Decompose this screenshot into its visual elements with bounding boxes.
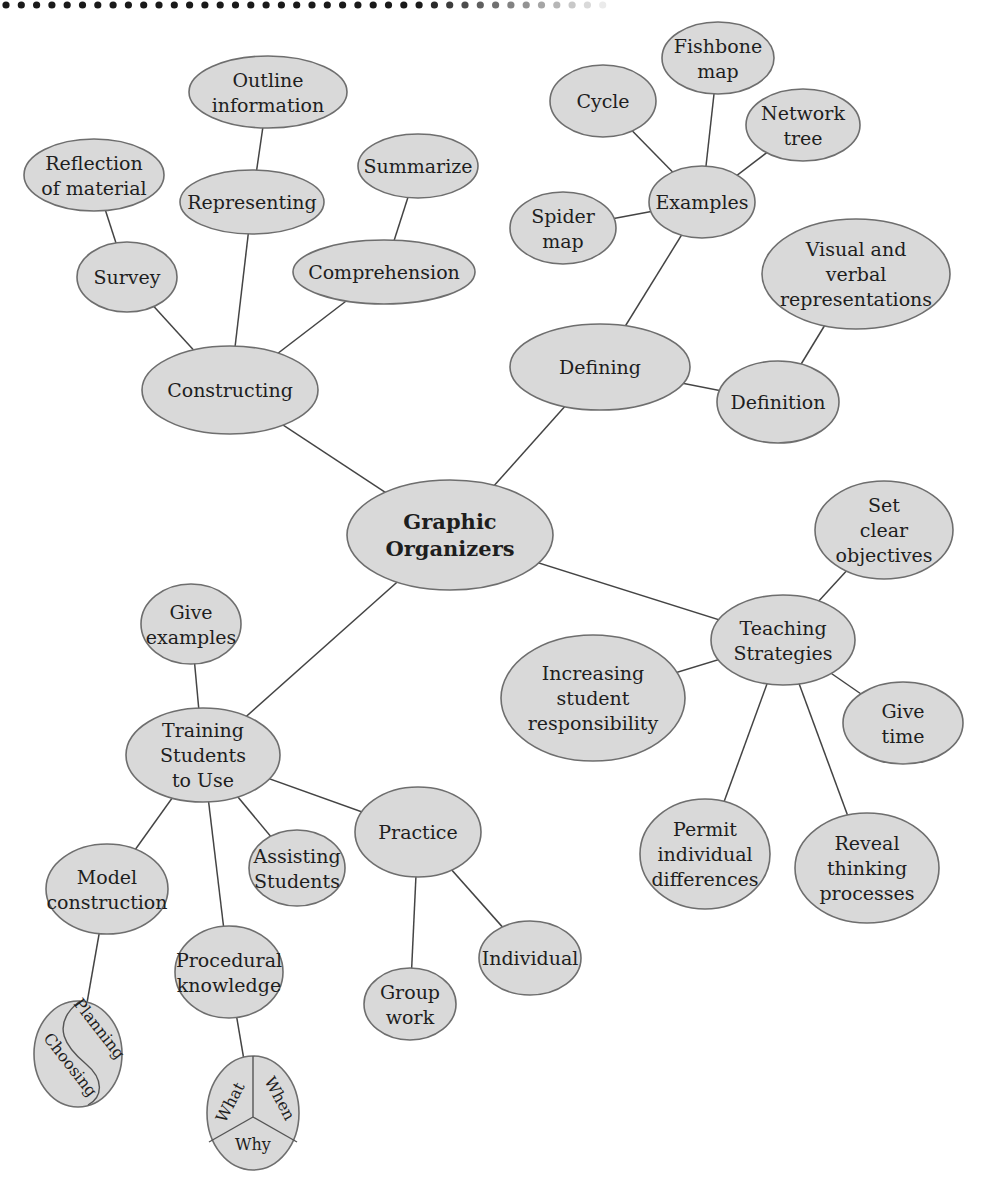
node-label: responsibility <box>528 712 659 734</box>
node-label: Reveal <box>835 832 900 854</box>
node-label: Comprehension <box>308 261 460 283</box>
node-label: Procedural <box>176 949 282 971</box>
node-label: Individual <box>482 947 579 969</box>
node-permit[interactable]: Permitindividualdifferences <box>640 799 770 909</box>
node-label: student <box>557 687 630 709</box>
node-label: objectives <box>836 544 933 566</box>
node-label: work <box>386 1006 435 1028</box>
node-label: knowledge <box>177 974 281 996</box>
node-ellipse <box>711 595 855 685</box>
node-label: Fishbone <box>674 35 762 57</box>
node-label: Defining <box>559 356 641 378</box>
node-label: representations <box>780 288 932 310</box>
node-label: thinking <box>827 857 907 879</box>
why-label: Why <box>235 1135 271 1154</box>
node-label: examples <box>146 626 237 648</box>
node-label: Outline <box>232 69 303 91</box>
node-what-when-why[interactable]: WhatWhenWhy <box>207 1056 299 1170</box>
node-label: Organizers <box>385 536 514 561</box>
node-label: Constructing <box>167 379 293 401</box>
node-survey[interactable]: Survey <box>77 242 177 312</box>
node-ellipse <box>141 584 241 664</box>
node-reflection[interactable]: Reflectionof material <box>24 139 164 211</box>
node-practice[interactable]: Practice <box>355 787 481 877</box>
node-label: Set <box>868 494 900 516</box>
node-giveexamples[interactable]: Giveexamples <box>141 584 241 664</box>
node-root[interactable]: GraphicOrganizers <box>347 480 553 590</box>
node-label: Training <box>162 719 244 741</box>
node-choosing-planning[interactable]: PlanningChoosing <box>34 995 129 1107</box>
node-ellipse <box>175 926 283 1018</box>
node-label: differences <box>651 868 758 890</box>
node-groupwork[interactable]: Groupwork <box>364 968 456 1040</box>
node-label: tree <box>783 127 822 149</box>
node-label: information <box>212 94 325 116</box>
special-nodes: PlanningChoosingWhatWhenWhy <box>34 995 299 1170</box>
node-network[interactable]: Networktree <box>746 89 860 161</box>
node-definition[interactable]: Definition <box>717 361 839 443</box>
node-label: Definition <box>731 391 826 413</box>
node-ellipse <box>249 830 345 906</box>
node-fishbone[interactable]: Fishbonemap <box>662 22 774 94</box>
node-ellipse <box>364 968 456 1040</box>
node-label: Survey <box>93 266 160 288</box>
node-label: individual <box>657 843 752 865</box>
node-ellipse <box>746 89 860 161</box>
node-givetime[interactable]: Givetime <box>843 682 963 764</box>
node-ellipse <box>24 139 164 211</box>
node-procedural[interactable]: Proceduralknowledge <box>175 926 283 1018</box>
node-label: clear <box>860 519 909 541</box>
node-label: map <box>542 230 584 252</box>
node-label: Network <box>761 102 845 124</box>
node-label: Practice <box>378 821 457 843</box>
node-label: Examples <box>655 191 748 213</box>
node-label: processes <box>819 882 914 904</box>
node-label: of material <box>41 177 146 199</box>
node-increasing[interactable]: Increasingstudentresponsibility <box>501 635 685 761</box>
node-label: Teaching <box>739 617 826 639</box>
node-label: Representing <box>187 191 316 213</box>
node-summarize[interactable]: Summarize <box>358 134 478 198</box>
node-label: Increasing <box>542 662 644 684</box>
node-ellipse <box>510 192 616 264</box>
node-label: Cycle <box>576 90 629 112</box>
node-training[interactable]: TrainingStudentsto Use <box>126 708 280 802</box>
node-outline[interactable]: Outlineinformation <box>189 56 347 128</box>
node-spider[interactable]: Spidermap <box>510 192 616 264</box>
node-teaching[interactable]: TeachingStrategies <box>711 595 855 685</box>
node-label: Graphic <box>403 509 496 534</box>
node-label: Summarize <box>363 155 472 177</box>
node-label: Visual and <box>805 238 907 260</box>
node-constructing[interactable]: Constructing <box>142 346 318 434</box>
node-label: Students <box>254 870 340 892</box>
concept-nodes: GraphicOrganizersConstructingSurveyRefle… <box>24 22 963 1040</box>
node-visual[interactable]: Visual andverbalrepresentations <box>762 219 950 329</box>
node-reveal[interactable]: Revealthinkingprocesses <box>795 813 939 923</box>
node-label: Group <box>380 981 440 1003</box>
node-ellipse <box>46 844 168 934</box>
node-model[interactable]: Modelconstruction <box>46 844 168 934</box>
node-individual[interactable]: Individual <box>479 921 581 995</box>
node-ellipse <box>189 56 347 128</box>
node-label: Assisting <box>252 845 340 867</box>
node-defining[interactable]: Defining <box>510 324 690 410</box>
node-examples[interactable]: Examples <box>649 166 755 238</box>
node-comprehension[interactable]: Comprehension <box>293 240 475 304</box>
node-label: Permit <box>673 818 737 840</box>
node-label: to Use <box>172 769 234 791</box>
node-label: Students <box>160 744 246 766</box>
node-ellipse <box>843 682 963 764</box>
node-label: Model <box>77 866 137 888</box>
node-ellipse <box>662 22 774 94</box>
node-label: Reflection <box>45 152 143 174</box>
node-label: verbal <box>825 263 887 285</box>
node-label: construction <box>46 891 167 913</box>
node-assisting[interactable]: AssistingStudents <box>249 830 345 906</box>
node-objectives[interactable]: Setclearobjectives <box>815 481 953 579</box>
node-cycle[interactable]: Cycle <box>550 65 656 137</box>
node-label: Spider <box>531 205 596 227</box>
node-representing[interactable]: Representing <box>180 170 324 234</box>
node-label: Strategies <box>733 642 832 664</box>
node-label: map <box>697 60 739 82</box>
mind-map-diagram: GraphicOrganizersConstructingSurveyRefle… <box>0 0 981 1182</box>
